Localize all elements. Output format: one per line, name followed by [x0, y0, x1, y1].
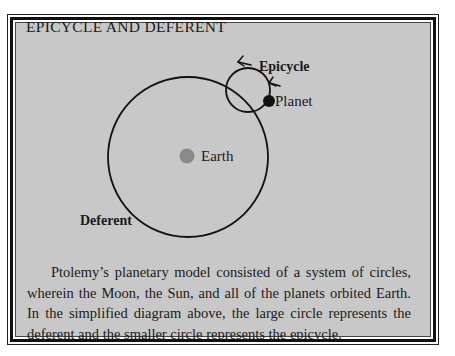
earth-label: Earth — [201, 148, 233, 165]
deferent-label: Deferent — [80, 213, 132, 229]
epicycle-label: Epicycle — [259, 59, 310, 75]
earth-dot — [180, 149, 195, 164]
epicycle-arrow-icon — [269, 77, 280, 86]
deferent-arrow-icon — [238, 56, 251, 66]
planet-dot — [263, 95, 275, 107]
planet-label: Planet — [275, 93, 313, 110]
caption-text: Ptolemy’s planetary model consisted of a… — [27, 262, 411, 344]
